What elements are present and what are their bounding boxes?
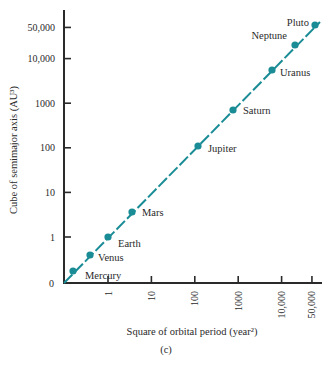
point-marker: [194, 142, 201, 149]
point-label: Pluto: [287, 17, 309, 28]
x-tick-label: 50,000: [306, 291, 317, 319]
point-label: Saturn: [243, 105, 271, 116]
y-tick-label: 50,000: [28, 22, 56, 33]
data-point-earth: Earth: [104, 233, 141, 249]
point-marker: [311, 21, 318, 28]
data-point-pluto: Pluto: [287, 17, 319, 29]
data-point-uranus: Uranus: [268, 66, 310, 78]
x-tick-label: 10,000: [276, 291, 287, 319]
data-point-venus: Venus: [86, 251, 123, 263]
point-marker: [69, 267, 76, 274]
x-tick-label: 1000: [233, 291, 244, 311]
data-point-neptune: Neptune: [251, 30, 298, 49]
trend-line: [64, 22, 320, 283]
data-points: MercuryVenusEarthMarsJupiterSaturnUranus…: [69, 17, 318, 281]
point-label: Jupiter: [208, 143, 237, 154]
point-label: Earth: [118, 238, 141, 249]
y-tick-label: 1: [50, 232, 55, 243]
axes: [63, 10, 322, 284]
x-tick-label: 1: [103, 291, 114, 296]
x-tick-label: 100: [189, 291, 200, 306]
kepler-third-law-chart: 110100100010,00050,000 110100100010,0005…: [0, 0, 331, 365]
data-point-jupiter: Jupiter: [194, 142, 237, 154]
point-label: Mars: [142, 207, 164, 218]
point-marker: [86, 251, 93, 258]
y-axis-title: Cube of semimajor axis (AU³): [8, 86, 20, 214]
origin-label: 0: [49, 278, 54, 289]
y-tick-label: 100: [40, 142, 55, 153]
x-tick-label: 10: [146, 291, 157, 301]
y-tick-label: 10,000: [28, 53, 56, 64]
point-label: Mercury: [85, 270, 122, 281]
point-marker: [268, 66, 275, 73]
point-marker: [291, 41, 298, 48]
point-label: Venus: [98, 252, 124, 263]
y-tick-label: 10: [45, 187, 55, 198]
data-point-mars: Mars: [128, 207, 163, 218]
point-marker: [128, 208, 135, 215]
figure-label: (c): [160, 344, 172, 356]
point-marker: [104, 233, 111, 240]
y-tick-label: 1000: [35, 98, 55, 109]
point-marker: [229, 106, 236, 113]
point-label: Neptune: [251, 30, 287, 41]
x-axis-title: Square of orbital period (year²): [127, 326, 258, 338]
point-label: Uranus: [280, 67, 310, 78]
